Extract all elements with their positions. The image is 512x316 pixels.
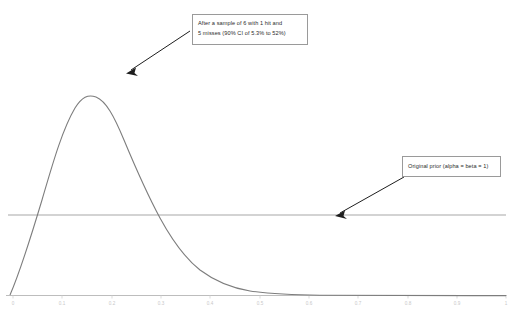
x-tick-label-9: 0.9 [454,301,461,306]
x-tick-label-6: 0.6 [306,301,313,306]
x-tick-label-10: 1 [505,301,508,306]
posterior-callout-arrow [126,31,190,76]
posterior-curve [10,96,506,296]
posterior-annotation-line-1: After a sample of 6 with 1 hit and [198,18,302,28]
x-tick-label-0: 0 [12,301,15,306]
x-tick-label-2: 0.2 [109,301,116,306]
prior-annotation-box: Original prior (alpha = beta = 1) [402,156,501,177]
prior-annotation-line-1: Original prior (alpha = beta = 1) [408,161,495,171]
posterior-annotation-box: After a sample of 6 with 1 hit and 5 mis… [192,14,308,45]
x-tick-label-1: 0.1 [59,301,66,306]
chart-canvas: After a sample of 6 with 1 hit and 5 mis… [0,0,512,316]
x-tick-label-3: 0.3 [158,301,165,306]
x-tick-label-4: 0.4 [207,301,214,306]
x-tick-label-8: 0.8 [405,301,412,306]
x-tick-label-7: 0.7 [355,301,362,306]
posterior-annotation-line-2: 5 misses (90% CI of 5.3% to 52%) [198,28,302,38]
prior-callout-arrow [335,177,404,219]
x-tick-label-5: 0.5 [257,301,264,306]
